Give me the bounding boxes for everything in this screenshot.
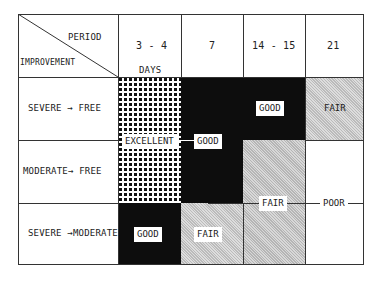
- grid-line: [18, 264, 363, 265]
- row-label-severe-free: SEVERE → FREE: [28, 103, 101, 113]
- corner-diagonal: [18, 14, 118, 77]
- column-header-21: 21: [327, 40, 339, 51]
- rating-good-row3: GOOD: [134, 227, 162, 242]
- rating-fair-mid: FAIR: [259, 196, 287, 211]
- grid-line: [18, 77, 363, 78]
- corner-improvement-label: IMPROVEMENT: [20, 58, 75, 67]
- region-good-main: [181, 77, 305, 140]
- grid-line: [118, 14, 119, 265]
- column-header-14-15: 14 - 15: [252, 40, 296, 51]
- rating-excellent: EXCELLENT: [122, 134, 177, 149]
- improvement-period-table: PERIOD IMPROVEMENT 3 - 4 DAYS 7 14 - 15 …: [18, 14, 363, 264]
- rating-fair-row3: FAIR: [194, 227, 222, 242]
- grid-line: [243, 14, 244, 77]
- grid-line: [305, 140, 363, 141]
- column-header-7: 7: [209, 40, 215, 51]
- grid-line: [18, 140, 118, 141]
- grid-line: [243, 203, 244, 264]
- row-label-moderate-free: MODERATE→ FREE: [23, 166, 102, 176]
- grid-line: [18, 203, 118, 204]
- rating-poor: POOR: [320, 196, 348, 211]
- grid-line: [305, 14, 306, 265]
- rating-good-mid: GOOD: [194, 134, 222, 149]
- corner-period-label: PERIOD: [68, 32, 102, 42]
- region-good-row2-col2: [181, 140, 243, 203]
- grid-line: [363, 14, 364, 265]
- grid-line: [181, 14, 182, 77]
- rating-good-row1: GOOD: [256, 101, 284, 116]
- row-label-severe-moderate: SEVERE →MODERATE: [28, 228, 118, 238]
- column-header-3-4: 3 - 4: [136, 40, 167, 51]
- rating-fair-row1: FAIR: [321, 101, 349, 116]
- column-header-days: DAYS: [139, 65, 161, 75]
